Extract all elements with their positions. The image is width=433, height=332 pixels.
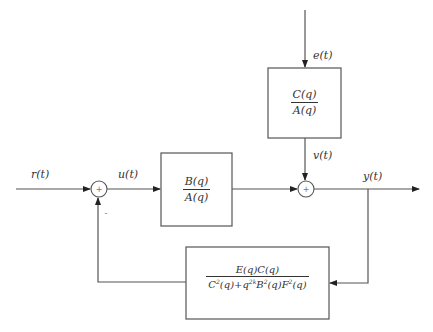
feedback-numerator: E(q)C(q) [234, 264, 281, 276]
sum1-plus-sign: + [96, 185, 103, 194]
feedback-denominator: C2(q)+q2kB2(q)F2(q) [206, 276, 308, 290]
feedback-minus-sign: - [105, 209, 108, 218]
noise-filter-numerator: C(q) [290, 88, 318, 102]
control-signal-label: u(t) [118, 168, 138, 181]
noise-filter-denominator: A(q) [291, 102, 319, 117]
output-signal-label: y(t) [363, 170, 382, 183]
feedback-branch-line [330, 189, 368, 283]
plant-numerator: B(q) [183, 175, 211, 189]
disturbance-signal-label: v(t) [313, 149, 332, 162]
noise-filter-transfer-function: C(q) A(q) [268, 88, 341, 117]
feedback-transfer-function: E(q)C(q) C2(q)+q2kB2(q)F2(q) [186, 264, 329, 290]
noise-signal-label: e(t) [313, 49, 333, 62]
plant-denominator: A(q) [183, 189, 211, 204]
reference-signal-label: r(t) [31, 168, 49, 181]
sum2-plus-sign: + [303, 185, 310, 194]
plant-transfer-function: B(q) A(q) [161, 175, 232, 204]
